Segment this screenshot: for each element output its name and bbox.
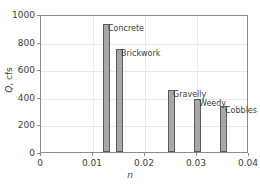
y-axis-title: Q, cfs (4, 50, 14, 110)
y-tick-mark (37, 70, 40, 71)
x-tick-mark (40, 153, 41, 156)
bar-label-concrete: Concrete (108, 24, 144, 33)
y-tick-mark (37, 98, 40, 99)
y-axis-title-units: , cfs (4, 67, 14, 86)
y-tick-label: 1000 (12, 11, 35, 20)
x-tick-label: 0 (37, 159, 43, 168)
bar-chart-figure: 02004006008001000 00.010.020.030.04 Conc… (0, 0, 260, 184)
gridline-vertical (93, 16, 94, 152)
x-tick-mark (92, 153, 93, 156)
bar (103, 24, 110, 152)
x-tick-label: 0.02 (134, 159, 154, 168)
x-tick-label: 0.03 (186, 159, 206, 168)
gridline-vertical (145, 16, 146, 152)
y-axis-title-symbol: Q (4, 86, 14, 93)
y-tick-mark (37, 43, 40, 44)
bar (116, 49, 123, 153)
bar-label-cobbles: Cobbles (225, 106, 257, 115)
gridline-horizontal (41, 71, 247, 72)
x-tick-label: 0.01 (82, 159, 102, 168)
x-tick-mark (196, 153, 197, 156)
gridline-horizontal (41, 44, 247, 45)
y-tick-label: 200 (18, 121, 35, 130)
bar-label-weedy: Weedy (199, 99, 226, 108)
y-tick-mark (37, 15, 40, 16)
bar-label-gravelly: Gravelly (173, 90, 206, 99)
y-tick-label: 0 (29, 149, 35, 158)
y-tick-label: 800 (18, 39, 35, 48)
x-tick-mark (144, 153, 145, 156)
plot-area (40, 15, 248, 153)
y-tick-label: 400 (18, 94, 35, 103)
y-tick-mark (37, 125, 40, 126)
x-axis-title: n (0, 170, 260, 180)
bar (168, 90, 175, 152)
gridline-horizontal (41, 126, 247, 127)
y-tick-label: 600 (18, 66, 35, 75)
bar-label-brickwork: Brickwork (121, 49, 160, 58)
x-tick-mark (248, 153, 249, 156)
x-tick-label: 0.04 (238, 159, 258, 168)
